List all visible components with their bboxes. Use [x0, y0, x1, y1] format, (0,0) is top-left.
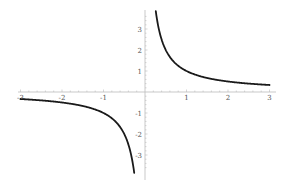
y-tick-label: -2: [135, 131, 142, 139]
x-tick-label: -2: [59, 94, 66, 102]
curve-negative-branch: [21, 99, 135, 173]
function-plot: -3-2-1123321-1-2-3: [0, 0, 287, 185]
x-tick-label: 2: [226, 94, 230, 102]
curve-positive-branch: [156, 11, 270, 85]
y-tick-label: 2: [138, 47, 142, 55]
y-tick-label: 1: [138, 68, 142, 76]
y-tick-label: -1: [135, 110, 142, 118]
x-tick-label: 3: [267, 94, 271, 102]
y-tick-label: -3: [135, 152, 142, 160]
x-tick-label: -1: [100, 94, 107, 102]
y-tick-label: 3: [138, 26, 142, 34]
axes: -3-2-1123321-1-2-3: [17, 10, 276, 180]
x-tick-label: -3: [17, 94, 24, 102]
x-tick-label: 1: [184, 94, 188, 102]
